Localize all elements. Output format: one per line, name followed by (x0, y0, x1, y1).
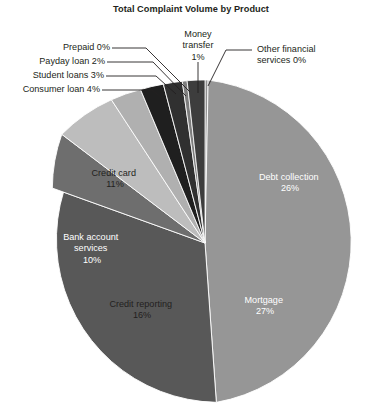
callout-label-other-financial-services: Other financial services 0% (257, 44, 379, 67)
callout-label-student-loans-line1: Student loans 3% (0, 70, 104, 81)
slice-label-mortgage-line1: Mortgage (245, 295, 283, 305)
callout-label-other-financial-services-line1: Other financial (257, 44, 379, 55)
slice-label-bank-account-services-line1: Bank account (63, 232, 119, 242)
callout-label-money-transfer-line1: Money (162, 29, 234, 40)
slice-label-debt-collection-line1: Debt collection (259, 172, 319, 182)
slice-label-debt-collection-line2: 26% (281, 183, 299, 193)
callout-label-consumer-loan: Consumer loan 4% (0, 84, 100, 95)
callout-label-student-loans: Student loans 3% (0, 70, 104, 81)
slice-label-credit-reporting-line2: 16% (133, 310, 151, 320)
slice-label-bank-account-services-line3: 10% (83, 255, 101, 265)
slice-label-mortgage-line2: 27% (256, 306, 274, 316)
slice-label-credit-reporting-line1: Credit reporting (109, 299, 172, 309)
callout-label-money-transfer-line3: 1% (162, 52, 234, 63)
callout-label-payday-loan: Payday loan 2% (0, 56, 105, 67)
callout-label-money-transfer: Money transfer 1% (162, 29, 234, 63)
slice-label-credit-card-line1: Credit card (91, 168, 135, 178)
slice-label-bank-account-services-line2: services (74, 243, 108, 253)
callout-label-money-transfer-line2: transfer (162, 40, 234, 51)
callout-label-consumer-loan-line1: Consumer loan 4% (0, 84, 100, 95)
pie-slice-debt-collection[interactable] (205, 80, 351, 402)
pie-chart-page: Total Complaint Volume by Product (0, 0, 382, 409)
callout-label-other-financial-services-line2: services 0% (257, 55, 379, 66)
callout-label-prepaid-line1: Prepaid 0% (0, 42, 110, 53)
slice-label-credit-card-line2: 11% (106, 179, 124, 189)
callout-label-prepaid: Prepaid 0% (0, 42, 110, 53)
callout-label-payday-loan-line1: Payday loan 2% (0, 56, 105, 67)
